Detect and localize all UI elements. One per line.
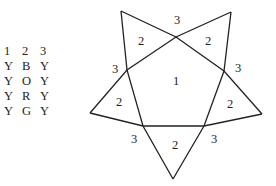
region-label-right-point: 2 — [227, 97, 233, 111]
region-label-right-mid: 3 — [235, 61, 241, 75]
region-label-center: 1 — [173, 74, 179, 88]
pentagram-diagram: 3 2 2 3 3 1 2 2 3 2 3 — [0, 0, 276, 186]
star-edge — [90, 113, 262, 126]
region-label-top: 3 — [174, 13, 180, 27]
region-label-bottom-left: 3 — [131, 132, 137, 146]
region-label-top-left-point: 2 — [138, 34, 144, 48]
star-edge — [121, 11, 173, 179]
star-edge — [173, 12, 231, 179]
region-label-left-mid: 3 — [112, 62, 118, 76]
region-label-bottom-point: 2 — [172, 138, 178, 152]
region-label-bottom-right: 3 — [211, 132, 217, 146]
region-label-left-point: 2 — [116, 95, 122, 109]
region-label-top-right-point: 2 — [205, 34, 211, 48]
